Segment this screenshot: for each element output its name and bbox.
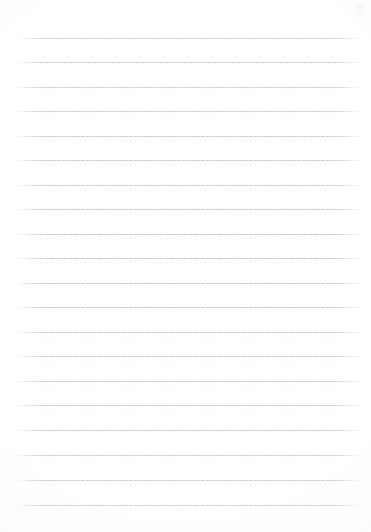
ruling-line [17,38,360,39]
ruling-line [15,111,360,112]
ruling-subline [25,360,340,361]
ruling-line [15,405,360,406]
ruling-line [15,185,360,186]
ruling-subline [25,213,340,214]
ruling-line [15,160,360,161]
ruling-line [15,283,360,284]
ruling-line [15,234,360,235]
ruling-subline [25,164,340,165]
ruling-line [15,209,360,210]
ruling-line [15,381,360,382]
ruling-line [15,332,360,333]
ruling-subline [25,91,340,92]
ruling-lines-layer [0,0,371,532]
ruling-subline [27,42,340,43]
ruling-subline [25,238,340,239]
ruling-subline [25,140,340,141]
ruling-subline [25,385,340,386]
ruling-line [15,307,360,308]
ruling-subline [25,459,340,460]
ruling-subline [25,287,340,288]
ruling-subline [25,262,340,263]
ruling-line [15,87,360,88]
ruling-subline [25,311,340,312]
ruling-subline [25,336,340,337]
ruling-line [16,62,360,63]
ruling-line [15,136,360,137]
ruling-subline [25,434,340,435]
ruling-subline [25,189,340,190]
ruling-line [15,455,360,456]
ruling-line [15,258,360,259]
lined-paper-page [0,0,371,532]
ruling-subline [25,484,340,485]
ruling-subline [25,509,340,510]
ruling-line [15,505,360,506]
ruling-line [15,356,360,357]
ruling-subline [25,409,340,410]
ruling-subline [26,66,340,67]
ruling-line [15,480,360,481]
ruling-subline [25,115,340,116]
ruling-line [15,430,360,431]
